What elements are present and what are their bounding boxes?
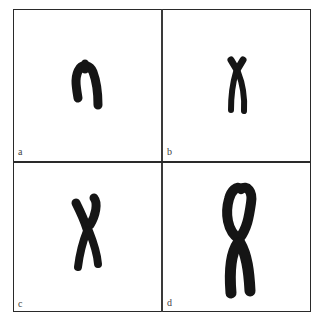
panel-label-d: d: [167, 298, 172, 308]
chromosome-acrocentric-icon: [163, 10, 310, 161]
panel-a: a: [14, 10, 161, 161]
chromosome-telocentric-icon: [14, 10, 161, 161]
chromosome-metacentric-icon: [163, 163, 310, 311]
panel-b: b: [163, 10, 310, 161]
panel-label-a: a: [18, 147, 22, 157]
panel-label-b: b: [167, 147, 172, 157]
chromosome-submetacentric-icon: [14, 163, 161, 311]
panel-label-c: c: [18, 299, 22, 309]
panel-d: d: [163, 163, 310, 311]
panel-c: c: [14, 163, 161, 311]
